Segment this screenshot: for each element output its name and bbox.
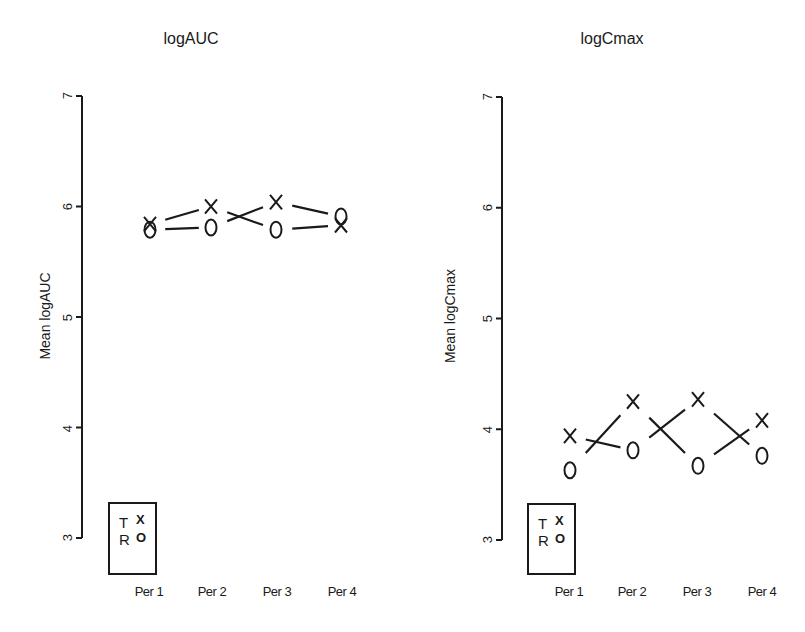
o-marker-icon — [206, 219, 217, 235]
o-marker-icon — [271, 222, 282, 238]
x-marker-icon — [270, 195, 282, 209]
x-tick-label: Per 1 — [544, 584, 594, 599]
o-marker-icon — [565, 462, 576, 478]
legend-x-marker-icon: X — [555, 513, 564, 528]
o-marker-icon — [757, 448, 768, 464]
legend-label-t: T — [538, 515, 547, 532]
x-tick-label: Per 2 — [607, 584, 657, 599]
x-marker-icon — [564, 429, 576, 443]
o-marker-icon — [693, 458, 704, 474]
connector-line — [165, 228, 199, 229]
chart-logauc: logAUC Mean logAUC 3 4 5 6 7 T X R O Per… — [0, 0, 402, 632]
x-marker-icon — [756, 413, 768, 427]
connector-line — [292, 206, 328, 214]
legend-label-t: T — [119, 514, 128, 531]
x-marker-icon — [692, 392, 704, 406]
o-marker-icon — [628, 442, 639, 458]
x-marker-icon — [205, 199, 217, 213]
legend: T X R O — [108, 502, 157, 575]
connector-line — [586, 415, 621, 453]
x-tick-label: Per 2 — [187, 584, 237, 599]
legend-x-marker-icon: X — [136, 512, 145, 527]
legend: T X R O — [527, 503, 576, 575]
legend-label-r: R — [119, 531, 130, 548]
x-tick-label: Per 1 — [124, 584, 174, 599]
legend-o-marker-icon: O — [136, 530, 146, 545]
o-marker-icon — [336, 208, 347, 224]
connector-line — [292, 226, 328, 228]
chart-logcmax: logCmax Mean logCmax 3 4 5 6 7 T X R O P… — [420, 0, 805, 632]
plot-area — [0, 0, 402, 632]
plot-area — [420, 0, 805, 632]
x-tick-label: Per 3 — [252, 584, 302, 599]
legend-label-r: R — [538, 532, 549, 549]
connector-line — [714, 429, 749, 454]
x-tick-label: Per 4 — [317, 584, 367, 599]
connector-line — [714, 413, 749, 444]
connector-line — [165, 210, 199, 220]
x-tick-label: Per 3 — [672, 584, 722, 599]
x-marker-icon — [627, 394, 639, 408]
legend-o-marker-icon: O — [555, 531, 565, 546]
x-tick-label: Per 4 — [737, 584, 787, 599]
